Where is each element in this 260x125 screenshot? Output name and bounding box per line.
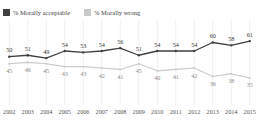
data-point: [212, 76, 214, 78]
data-label: 54: [99, 41, 105, 48]
data-label: 43: [62, 70, 68, 77]
data-point: [193, 50, 195, 52]
data-point: [175, 50, 177, 52]
line-chart-svg: 4546454343424145404142363835 50514954535…: [0, 20, 259, 105]
data-label: 58: [228, 35, 234, 42]
x-axis-labels: 2002200320042005200620072008200920102011…: [0, 107, 259, 121]
data-label: 53: [80, 42, 86, 49]
data-point: [119, 47, 121, 49]
data-point: [82, 66, 84, 68]
x-tick-2005: 2005: [56, 107, 75, 121]
data-point: [138, 63, 140, 65]
data-label: 41: [117, 73, 123, 80]
data-label: 41: [173, 73, 179, 80]
x-tick-2008: 2008: [111, 107, 130, 121]
data-label: 43: [80, 70, 86, 77]
data-point: [249, 77, 251, 79]
legend-label-morally-acceptable: % Morally acceptable: [13, 9, 70, 16]
data-point: [156, 50, 158, 52]
x-tick-2006: 2006: [74, 107, 93, 121]
legend-swatch-wrong-icon: [84, 9, 91, 16]
data-point: [212, 41, 214, 43]
data-point: [230, 44, 232, 46]
data-point: [8, 55, 10, 57]
x-tick-2004: 2004: [37, 107, 56, 121]
data-label: 45: [43, 67, 49, 74]
chart-container: % Morally acceptable % Morally wrong 454…: [0, 0, 259, 125]
plot-area: 4546454343424145404142363835 50514954535…: [0, 20, 259, 105]
x-tick-2003: 2003: [19, 107, 38, 121]
legend-item-morally-wrong[interactable]: % Morally wrong: [84, 9, 140, 16]
data-point: [101, 50, 103, 52]
data-label: 54: [62, 41, 68, 48]
data-point: [64, 50, 66, 52]
data-point: [119, 69, 121, 71]
data-label: 51: [25, 45, 31, 52]
x-tick-2011: 2011: [167, 107, 186, 121]
x-tick-2009: 2009: [130, 107, 149, 121]
legend-label-morally-wrong: % Morally wrong: [94, 9, 140, 16]
data-point: [138, 54, 140, 56]
data-label: 56: [117, 38, 123, 45]
data-point: [101, 67, 103, 69]
data-label: 54: [154, 41, 160, 48]
data-point: [8, 63, 10, 65]
data-label: 51: [136, 45, 142, 52]
x-tick-2014: 2014: [222, 107, 241, 121]
data-label: 45: [6, 67, 12, 74]
data-label: 60: [210, 32, 216, 39]
chart-legend: % Morally acceptable % Morally wrong: [0, 5, 140, 19]
data-label: 38: [228, 77, 234, 84]
data-label: 54: [191, 41, 197, 48]
x-tick-2002: 2002: [0, 107, 19, 121]
labels-morally-wrong: 4546454343424145404142363835: [6, 66, 253, 89]
data-label: 46: [25, 66, 31, 73]
data-point: [193, 67, 195, 69]
x-tick-2012: 2012: [185, 107, 204, 121]
data-label: 54: [173, 41, 179, 48]
data-label: 50: [6, 46, 12, 53]
data-label: 61: [247, 31, 253, 38]
data-label: 42: [191, 72, 197, 79]
data-point: [27, 61, 29, 63]
data-label: 42: [99, 72, 105, 79]
data-point: [45, 57, 47, 59]
data-point: [249, 40, 251, 42]
data-point: [27, 54, 29, 56]
x-tick-2015: 2015: [241, 107, 260, 121]
legend-item-morally-acceptable[interactable]: % Morally acceptable: [3, 9, 70, 16]
data-point: [156, 70, 158, 72]
legend-swatch-acceptable-icon: [3, 9, 10, 16]
data-point: [45, 63, 47, 65]
x-tick-2007: 2007: [93, 107, 112, 121]
data-point: [82, 51, 84, 53]
data-label: 36: [210, 80, 216, 87]
data-point: [175, 69, 177, 71]
data-label: 49: [43, 48, 49, 55]
data-label: 40: [154, 74, 160, 81]
series-morally-wrong: 4546454343424145404142363835: [6, 61, 253, 88]
data-point: [230, 73, 232, 75]
x-tick-2013: 2013: [204, 107, 223, 121]
data-point: [64, 66, 66, 68]
data-label: 35: [247, 81, 253, 88]
x-tick-2010: 2010: [148, 107, 167, 121]
data-label: 45: [136, 67, 142, 74]
series-morally-acceptable: 5051495453545651545454605861: [6, 31, 253, 60]
